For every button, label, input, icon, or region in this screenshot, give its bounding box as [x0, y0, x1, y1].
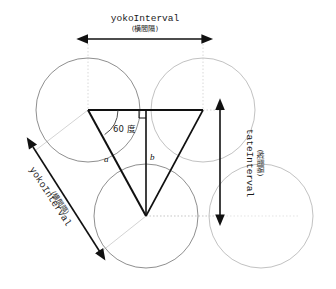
yoko-interval-top-label: yokoInterval: [111, 13, 180, 24]
side-label-a: a: [104, 154, 109, 164]
diagram-canvas: yokoInterval (横間隔) tateInterval (縦間隔) yo…: [0, 0, 336, 289]
circle-packing-diagram: yokoInterval (横間隔) tateInterval (縦間隔) yo…: [0, 0, 336, 289]
tate-interval-right-label-jp: (縦間隔): [256, 150, 265, 177]
angle-label-60-degrees: 60 度: [113, 124, 136, 134]
yoko-interval-top-label-jp: (横間隔): [132, 24, 159, 33]
diagram-background: [0, 0, 336, 289]
tate-interval-right-label: tateInterval: [244, 129, 255, 198]
side-label-b: b: [150, 152, 155, 162]
